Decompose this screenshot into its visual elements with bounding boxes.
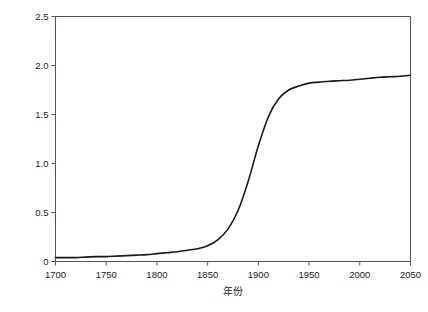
chart-background [0,0,428,312]
y-tick-label: 0.5 [35,207,48,218]
y-tick-label: 2.0 [35,60,48,71]
x-tick-label: 1800 [146,269,167,280]
y-tick-label: 1.0 [35,158,48,169]
x-tick-label: 1900 [248,269,269,280]
x-tick-label: 2050 [400,269,421,280]
x-tick-label: 2000 [349,269,370,280]
y-tick-label: 2.5 [35,11,48,22]
x-axis-title: 年份 [55,283,411,298]
x-tick-label: 1750 [96,269,117,280]
y-tick-label: 0 [43,256,48,267]
arable-land-line-chart: 美国耕地面积（亿公顷） 00.51.01.52.02.5 17001750180… [0,0,428,312]
y-tick-label: 1.5 [35,109,48,120]
x-tick-label: 1700 [45,269,66,280]
chart-plot-area: 00.51.01.52.02.5 17001750180018501900195… [0,0,428,312]
x-tick-label: 1950 [299,269,320,280]
x-tick-label: 1850 [197,269,218,280]
